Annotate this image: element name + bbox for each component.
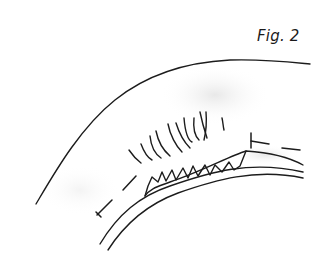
shading-upper	[160, 65, 270, 125]
crypt-stroke	[129, 150, 141, 163]
crypt-stroke	[168, 124, 182, 152]
shading-left	[40, 165, 120, 215]
crypt-stroke	[150, 136, 161, 158]
inner-surface-lowest-line	[108, 174, 303, 250]
crypt-stroke	[141, 144, 152, 160]
inner-surface-lower-line	[100, 167, 303, 244]
dash-segment	[123, 176, 136, 190]
anatomical-diagram	[0, 0, 326, 273]
crypt-stroke	[156, 131, 170, 156]
dash-segment	[251, 141, 269, 144]
figure-canvas: Fig. 2	[0, 0, 326, 273]
shading-right	[230, 145, 300, 165]
